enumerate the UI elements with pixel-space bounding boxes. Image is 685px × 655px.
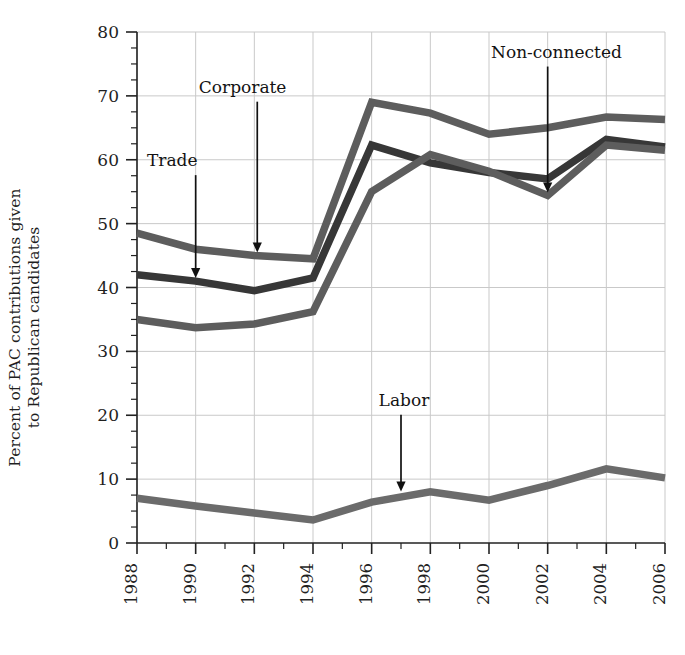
chart-figure: 01020304050607080 1988199019921994199619… xyxy=(0,0,685,655)
y-tick-label: 40 xyxy=(97,278,119,298)
y-tick-label: 30 xyxy=(97,341,119,361)
x-tick-label: 1996 xyxy=(357,563,376,605)
x-tick-label: 1998 xyxy=(415,563,434,605)
chart-canvas: 01020304050607080 1988199019921994199619… xyxy=(0,0,685,655)
y-tick-label: 50 xyxy=(97,214,119,234)
annotation-label-corporate: Corporate xyxy=(199,77,287,97)
y-tick-label: 80 xyxy=(97,22,119,42)
y-tick-label: 60 xyxy=(97,150,119,170)
x-tick-label: 1990 xyxy=(181,563,200,605)
y-tick-label: 10 xyxy=(97,469,119,489)
x-tick-label: 2004 xyxy=(591,563,610,605)
y-tick-label: 70 xyxy=(97,86,119,106)
y-tick-label: 20 xyxy=(97,405,119,425)
x-tick-label: 2006 xyxy=(650,563,669,605)
x-tick-label: 2000 xyxy=(474,563,493,605)
annotation-label-trade: Trade xyxy=(147,150,198,170)
x-tick-label: 2002 xyxy=(533,563,552,605)
x-tick-label: 1988 xyxy=(122,563,141,605)
x-tick-label: 1994 xyxy=(298,563,317,605)
annotation-label-labor: Labor xyxy=(379,390,431,410)
y-tick-label: 0 xyxy=(108,533,119,553)
x-tick-label: 1992 xyxy=(239,563,258,605)
annotation-label-non-connected: Non-connected xyxy=(491,42,622,62)
